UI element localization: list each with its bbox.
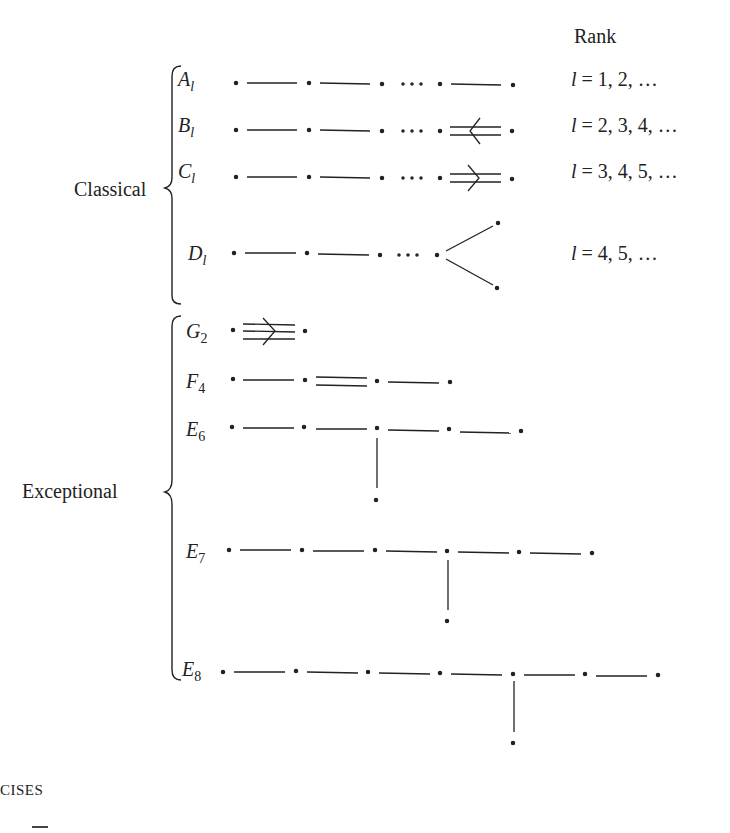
- exceptional-brace: [165, 316, 181, 680]
- diagram-E7: [227, 548, 593, 622]
- diagram-C: [234, 165, 513, 191]
- diagram-B: [234, 118, 513, 144]
- diagram-E6: [230, 425, 522, 501]
- diagram-G2: [231, 318, 306, 345]
- dynkin-diagrams: [0, 0, 730, 833]
- classical-brace: [165, 66, 181, 304]
- diagram-F4: [231, 377, 451, 386]
- diagram-E8: [221, 669, 659, 744]
- diagram-D: [232, 221, 499, 289]
- diagram-A: [234, 81, 514, 86]
